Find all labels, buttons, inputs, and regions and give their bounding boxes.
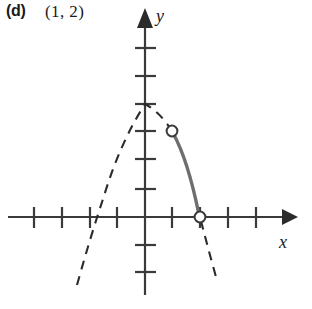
y-axis-label: y [154,6,164,26]
x-axis-arrowhead [282,209,298,225]
open-circle-marker-lower [195,212,206,223]
x-axis-label: x [278,232,287,252]
figure-panel: (d) (1, 2) [0,0,312,309]
parabola-dashed-right [201,221,216,277]
coordinate-pair-label: (1, 2) [45,2,84,22]
coordinate-graph: x y [0,0,312,309]
parabola-solid-segment [173,133,199,215]
part-letter-label: (d) [6,2,26,20]
y-axis-arrowhead [137,8,153,28]
parabola-dashed-left [77,104,172,285]
open-circle-marker-upper [167,126,178,137]
